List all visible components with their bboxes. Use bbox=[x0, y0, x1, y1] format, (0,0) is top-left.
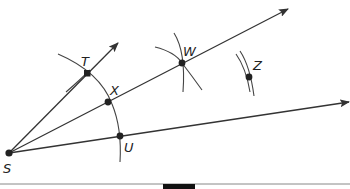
arc-z-1 bbox=[236, 54, 250, 92]
point-x bbox=[105, 99, 112, 106]
label-t: T bbox=[81, 54, 90, 69]
label-w: W bbox=[183, 44, 197, 59]
point-w bbox=[179, 60, 186, 67]
point-s bbox=[5, 149, 12, 156]
construction-diagram: S T X W Z U bbox=[0, 0, 350, 189]
ray-su bbox=[9, 102, 349, 153]
point-z bbox=[246, 74, 253, 81]
point-u bbox=[117, 133, 124, 140]
arc-z-2 bbox=[240, 51, 254, 96]
bottom-tab bbox=[163, 184, 195, 189]
label-s: S bbox=[3, 161, 11, 176]
label-z: Z bbox=[252, 58, 263, 73]
point-t bbox=[84, 70, 91, 77]
ray-sw bbox=[9, 9, 288, 153]
label-x: X bbox=[109, 83, 120, 98]
label-u: U bbox=[124, 140, 134, 155]
ray-st bbox=[9, 43, 118, 153]
